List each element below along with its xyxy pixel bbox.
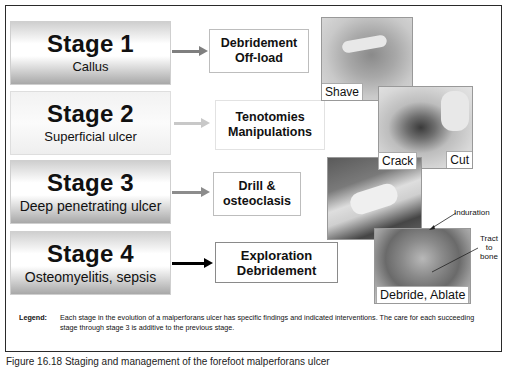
figure-caption: Figure 16.18 Staging and management of t… [6, 356, 330, 367]
stage-3-box: Stage 3 Deep penetrating ulcer [10, 160, 171, 224]
stage-2-box: Stage 2 Superficial ulcer [10, 91, 171, 155]
stage-3-action-box: Drill & osteoclasis [213, 172, 301, 216]
stage-1-action-box: Debridement Off-load [209, 29, 309, 73]
photo-debride-label: Debride, Ablate [376, 286, 469, 303]
stage-2-action-box: Tenotomies Manipulations [215, 100, 325, 150]
stage-3-subtitle: Deep penetrating ulcer [11, 198, 170, 214]
stage-4-arrow-icon [172, 258, 213, 268]
stage-4-action-line-2: Debridement [216, 263, 337, 278]
stage-4-title: Stage 4 [11, 240, 170, 267]
legend-text: Each stage in the evolution of a malperf… [60, 313, 480, 332]
stage-2-title: Stage 2 [11, 100, 170, 127]
annotation-induration: Induration [454, 208, 490, 217]
stage-3-action-line-1: Drill & [214, 179, 300, 194]
annotation-tract-to-bone: Tract to bone [477, 234, 501, 261]
stage-1-subtitle: Callus [11, 59, 170, 75]
stage-3-action-line-2: osteoclasis [214, 194, 300, 209]
stage-3-arrow-icon [172, 187, 210, 197]
legend-label: Legend: [19, 313, 47, 323]
stage-4-box: Stage 4 Osteomyelitis, sepsis [10, 231, 171, 295]
photo-crack-label: Crack [378, 152, 417, 170]
stage-3-title: Stage 3 [11, 169, 170, 196]
stage-1-action-line-1: Debridement [210, 36, 308, 51]
stage-1-arrow-icon [172, 46, 208, 56]
photo-cut-label: Cut [446, 151, 472, 168]
stage-1-title: Stage 1 [11, 30, 170, 57]
stage-2-arrow-icon [174, 118, 210, 128]
stage-2-action-line-2: Manipulations [216, 125, 324, 140]
stage-4-subtitle: Osteomyelitis, sepsis [11, 269, 170, 285]
induration-pointer-icon [428, 210, 458, 232]
stage-2-subtitle: Superficial ulcer [11, 129, 170, 145]
tract-pointer-icon [430, 246, 480, 276]
photo-shave-label: Shave [322, 83, 363, 100]
stage-2-action-line-1: Tenotomies [216, 110, 324, 125]
stage-4-action-line-1: Exploration [216, 248, 337, 263]
stage-1-box: Stage 1 Callus [10, 21, 171, 85]
stage-4-action-box: Exploration Debridement [215, 242, 338, 283]
stage-1-action-line-2: Off-load [210, 51, 308, 66]
